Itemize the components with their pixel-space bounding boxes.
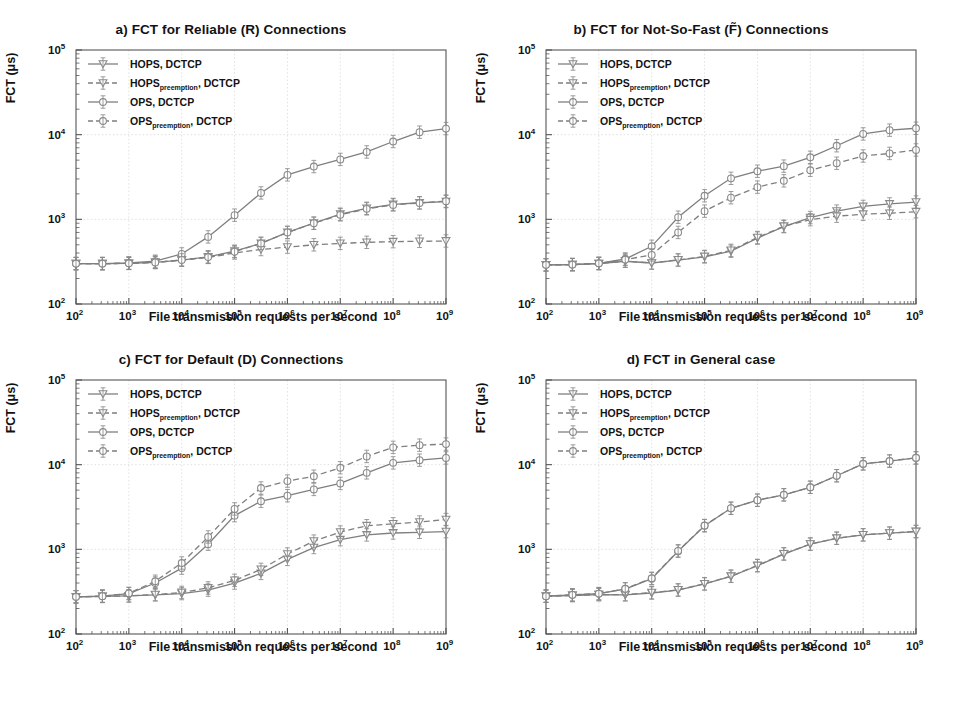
panel-d-title: d) FCT in General case [478,352,924,367]
data-point-marker [73,591,80,603]
data-point-marker [125,257,132,269]
chart-panel-b: b) FCT for Not-So-Fast (F̃) Connections … [478,18,924,348]
panel-c-plot-area: 102103104105106107108109102103104105HOPS… [8,370,454,678]
y-tick-label: 104 [48,457,66,471]
data-point-marker [569,589,576,601]
legend: HOPS, DCTCPHOPSpreemption, DCTCPOPS, DCT… [88,388,240,460]
y-tick-label: 103 [518,541,536,555]
panel-c-y-axis-label: FCT (μs) [4,348,18,468]
data-point-marker [99,590,106,602]
data-point-marker [363,450,370,462]
legend-label: OPS, DCTCP [600,426,664,438]
panel-d-y-axis-label: FCT (μs) [474,348,488,468]
data-point-marker [913,122,920,134]
data-point-marker [416,197,423,209]
data-point-marker [728,192,735,204]
data-point-marker [205,231,212,243]
data-point-marker [443,452,450,464]
data-point-marker [780,489,787,501]
legend-label: OPS, DCTCP [600,96,664,108]
legend-label: HOPSpreemption, DCTCP [600,407,710,422]
data-point-marker [443,122,450,134]
panel-a-title: a) FCT for Reliable (R) Connections [8,22,454,37]
panel-b-plot-area: 102103104105106107108109102103104105HOPS… [478,40,924,348]
series-line [546,531,916,596]
data-point-marker [390,441,397,453]
data-point-marker [807,164,814,176]
data-point-marker [728,502,735,514]
data-point-marker [780,160,787,172]
y-tick-label: 102 [48,626,66,640]
data-point-marker [310,483,317,495]
data-point-marker [100,115,107,127]
legend: HOPS, DCTCPHOPSpreemption, DCTCPOPS, DCT… [558,58,710,130]
data-point-marker [442,235,450,247]
data-point-marker [337,477,344,489]
series-line [546,532,916,597]
data-point-marker [675,226,682,238]
data-point-marker [543,259,550,271]
data-point-marker [310,160,317,172]
panel-a-x-axis-label: File transmission requests per second [78,310,448,324]
data-point-marker [310,217,317,229]
data-point-marker [258,482,265,494]
data-point-marker [99,257,106,269]
data-point-marker [886,455,893,467]
data-point-marker [543,590,550,602]
y-tick-label: 105 [518,372,536,386]
data-point-marker [390,135,397,147]
data-point-marker [701,190,708,202]
data-point-marker [833,157,840,169]
plot-svg-c: 102103104105106107108109102103104105HOPS… [8,370,454,678]
data-point-marker [570,426,577,438]
y-tick-label: 103 [48,541,66,555]
data-point-marker [100,445,107,457]
data-point-marker [363,146,370,158]
data-point-marker [284,489,291,501]
data-point-marker [701,205,708,217]
data-point-marker [886,147,893,159]
data-point-marker [284,169,291,181]
panel-d-plot-area: 102103104105106107108109102103104105HOPS… [478,370,924,678]
legend-label: HOPS, DCTCP [600,58,672,70]
panel-a-y-axis-label: FCT (μs) [4,18,18,138]
data-point-marker [807,151,814,163]
data-point-marker [310,470,317,482]
data-point-marker [284,226,291,238]
legend: HOPS, DCTCPHOPSpreemption, DCTCPOPS, DCT… [558,388,710,460]
legend-label: HOPSpreemption, DCTCP [600,77,710,92]
data-point-marker [416,126,423,138]
data-point-marker [416,439,423,451]
data-point-marker [754,494,761,506]
data-point-marker [570,96,577,108]
data-point-marker [833,469,840,481]
data-point-marker [569,258,576,270]
data-point-marker [595,587,602,599]
panel-b-title: b) FCT for Not-So-Fast (F̃) Connections [478,22,924,37]
chart-panel-a: a) FCT for Reliable (R) Connections 1021… [8,18,454,348]
data-point-marker [100,96,107,108]
y-tick-label: 104 [518,127,536,141]
legend-label: OPSpreemption, DCTCP [600,115,702,130]
data-point-marker [675,545,682,557]
data-point-marker [152,256,159,268]
chart-panel-d: d) FCT in General case 10210310410510610… [478,348,924,678]
data-point-marker [833,140,840,152]
data-point-marker [860,128,867,140]
data-point-marker [337,153,344,165]
panel-d-x-axis-label: File transmission requests per second [548,640,918,654]
panel-c-title: c) FCT for Default (D) Connections [8,352,454,367]
data-point-marker [860,458,867,470]
y-tick-label: 104 [518,457,536,471]
data-point-marker [648,572,655,584]
legend: HOPS, DCTCPHOPSpreemption, DCTCPOPS, DCT… [88,58,240,130]
y-tick-label: 102 [518,626,536,640]
data-point-marker [284,475,291,487]
legend-label: OPSpreemption, DCTCP [600,445,702,460]
figure-canvas: a) FCT for Reliable (R) Connections 1021… [0,0,956,714]
legend-label: HOPSpreemption, DCTCP [130,77,240,92]
data-point-marker [337,462,344,474]
data-point-marker [807,481,814,493]
data-point-marker [701,519,708,531]
y-tick-label: 103 [48,211,66,225]
